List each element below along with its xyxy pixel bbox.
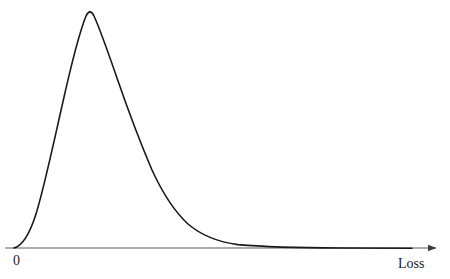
density-curve (14, 12, 412, 248)
x-axis-origin-label: 0 (13, 254, 20, 268)
x-axis-title-label: Loss (398, 257, 424, 271)
plot-canvas (0, 0, 450, 279)
loss-distribution-figure: 0 Loss (0, 0, 450, 279)
